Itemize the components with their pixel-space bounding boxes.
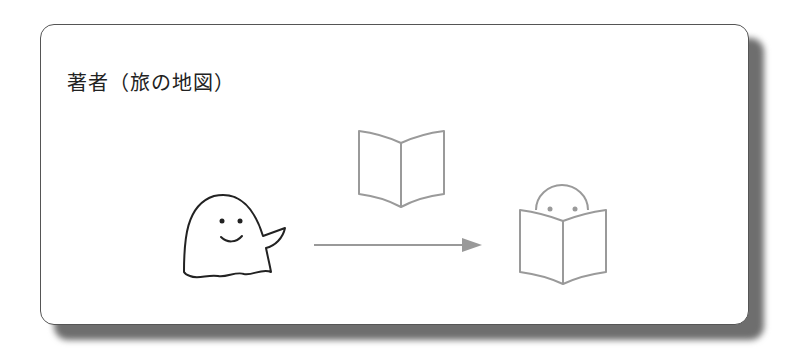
diagram-canvas — [0, 0, 803, 360]
ghost-right-eye — [238, 219, 243, 224]
reader-left-eye — [548, 207, 553, 212]
open-book-icon — [359, 131, 444, 207]
ghost-left-eye — [220, 219, 225, 224]
reader-right-eye — [573, 207, 578, 212]
right-arrow-icon — [314, 238, 482, 252]
ghost-icon — [184, 195, 285, 277]
reader-icon — [520, 185, 606, 284]
